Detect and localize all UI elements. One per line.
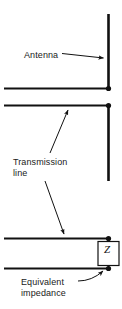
antenna-leader-line: [62, 54, 104, 59]
impedance-bottom-dot: [106, 266, 111, 271]
transmission-line-leader-down: [45, 181, 64, 234]
diagram-canvas: [0, 0, 122, 309]
transmission-line-label: Transmission line: [13, 157, 67, 178]
equivalent-impedance-leader: [78, 271, 103, 281]
antenna-label: Antenna: [24, 50, 58, 61]
transmission-line-leader-up: [50, 110, 68, 153]
technical-diagram: Antenna Transmission line Equivalent imp…: [0, 0, 122, 309]
impedance-symbol-label: Z: [99, 243, 115, 255]
line-top-dot: [106, 103, 111, 108]
impedance-top-dot: [106, 236, 111, 241]
antenna-feed-dot: [106, 86, 111, 91]
equivalent-impedance-label: Equivalent impedance: [21, 277, 66, 298]
